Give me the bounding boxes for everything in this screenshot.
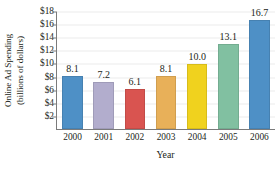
bar-series: 8.17.26.18.110.013.116.7 — [57, 12, 275, 129]
bar-slot: 10.0 — [187, 12, 208, 129]
x-axis-tick-label: 2001 — [94, 133, 113, 142]
x-axis-tick-label: 2000 — [63, 133, 82, 142]
plot-area: 8.17.26.18.110.013.116.7 — [56, 12, 275, 130]
y-axis-title: Online Ad Spending (billions of dollars) — [0, 0, 30, 140]
bar-value-label: 16.7 — [251, 8, 269, 18]
y-axis-title-line1: Online Ad Spending — [4, 33, 14, 106]
bar-slot: 13.1 — [218, 12, 239, 129]
x-axis-tick-label: 2002 — [125, 133, 144, 142]
bar-slot: 16.7 — [249, 12, 270, 129]
bar-slot: 8.1 — [62, 12, 83, 129]
bar-value-label: 13.1 — [220, 32, 238, 42]
bar-slot: 8.1 — [156, 12, 177, 129]
x-axis-tick-label: 2003 — [157, 133, 176, 142]
y-axis-title-line2: (billions of dollars) — [15, 33, 27, 106]
x-axis-tick-label: 2004 — [188, 133, 207, 142]
bar-value-label: 7.2 — [97, 70, 110, 80]
bar-slot: 6.1 — [125, 12, 146, 129]
bar-value-label: 8.1 — [66, 64, 79, 74]
x-axis-tick-labels: 2000200120022003200420052006 — [57, 133, 275, 147]
bar[interactable] — [218, 44, 239, 129]
bar-chart-figure: Online Ad Spending (billions of dollars)… — [0, 0, 279, 170]
bar[interactable] — [249, 20, 270, 129]
y-axis-tick-labels: $2$4$6$8$10$12$14$16$18 — [28, 12, 54, 130]
bar-value-label: 8.1 — [160, 64, 173, 74]
x-axis-title: Year — [56, 150, 275, 160]
bar[interactable] — [187, 64, 208, 129]
x-axis-tick-label: 2005 — [219, 133, 238, 142]
bar-slot: 7.2 — [93, 12, 114, 129]
bar-value-label: 10.0 — [188, 52, 206, 62]
x-axis-tick-label: 2006 — [250, 133, 269, 142]
bar[interactable] — [156, 76, 177, 129]
bar[interactable] — [125, 89, 146, 129]
bar[interactable] — [93, 82, 114, 129]
bar[interactable] — [62, 76, 83, 129]
bar-value-label: 6.1 — [129, 77, 142, 87]
